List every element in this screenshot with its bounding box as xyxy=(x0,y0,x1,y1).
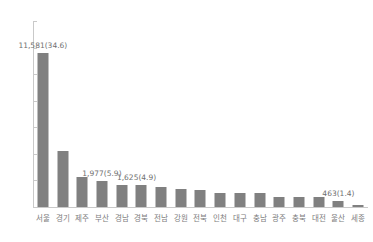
x-tick-label: 대구 xyxy=(230,213,250,224)
bar xyxy=(333,201,344,207)
y-tick: 0 xyxy=(0,207,40,208)
bar-group xyxy=(171,21,191,207)
bar-group: 1,977(5.9) xyxy=(92,21,112,207)
x-tick-label: 경남 xyxy=(112,213,132,224)
bar xyxy=(234,193,245,207)
bar-group xyxy=(191,21,211,207)
bar-group xyxy=(210,21,230,207)
bar xyxy=(77,177,88,207)
bar xyxy=(274,197,285,207)
bar xyxy=(353,205,364,207)
x-axis-line xyxy=(33,207,368,208)
bar-group xyxy=(132,21,152,207)
bar-group xyxy=(269,21,289,207)
bar-group xyxy=(309,21,329,207)
x-tick-label: 충남 xyxy=(250,213,270,224)
bar xyxy=(294,197,305,207)
bar-group xyxy=(230,21,250,207)
bar-group xyxy=(250,21,270,207)
x-tick-label: 경기 xyxy=(53,213,73,224)
bar-group xyxy=(348,21,368,207)
x-tick-label: 전북 xyxy=(191,213,211,224)
bar xyxy=(136,185,147,207)
y-tick-mark xyxy=(33,207,37,208)
bar xyxy=(96,181,107,207)
bar xyxy=(156,187,167,207)
bar xyxy=(254,193,265,207)
x-tick-label: 부산 xyxy=(92,213,112,224)
x-tick-label: 세종 xyxy=(348,213,368,224)
bar xyxy=(175,189,186,207)
x-tick-label: 광주 xyxy=(269,213,289,224)
x-tick-label: 서울 xyxy=(33,213,53,224)
bar-group xyxy=(53,21,73,207)
bar-chart: 02,0004,0006,0008,00010,00012,00014,000 … xyxy=(0,0,373,242)
bar xyxy=(57,151,68,207)
bar-group: 11,581(34.6) xyxy=(33,21,53,207)
bar xyxy=(195,190,206,207)
x-tick-label: 전남 xyxy=(151,213,171,224)
x-axis-categories: 서울경기제주부산경남경북전남강원전북인천대구충남광주충북대전울산세종 xyxy=(33,210,368,232)
x-tick-label: 강원 xyxy=(171,213,191,224)
bar xyxy=(215,193,226,207)
x-tick-label: 인천 xyxy=(210,213,230,224)
bars-layer: 11,581(34.6)1,977(5.9)1,625(4.9)463(1.4) xyxy=(33,21,368,207)
bar-group: 463(1.4) xyxy=(329,21,349,207)
x-tick-label: 충북 xyxy=(289,213,309,224)
bar xyxy=(116,185,127,207)
bar-group xyxy=(151,21,171,207)
bar-group xyxy=(72,21,92,207)
x-tick-label: 경북 xyxy=(132,213,152,224)
x-tick-label: 울산 xyxy=(329,213,349,224)
bar-group xyxy=(289,21,309,207)
bar-group: 1,625(4.9) xyxy=(112,21,132,207)
x-tick-label: 대전 xyxy=(309,213,329,224)
bar xyxy=(37,53,48,207)
x-tick-label: 제주 xyxy=(72,213,92,224)
